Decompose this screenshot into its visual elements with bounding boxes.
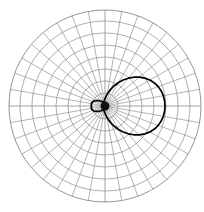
polar-radiation-pattern-chart xyxy=(0,0,204,212)
polar-plot-svg xyxy=(0,0,204,212)
origin-marker xyxy=(101,101,110,110)
